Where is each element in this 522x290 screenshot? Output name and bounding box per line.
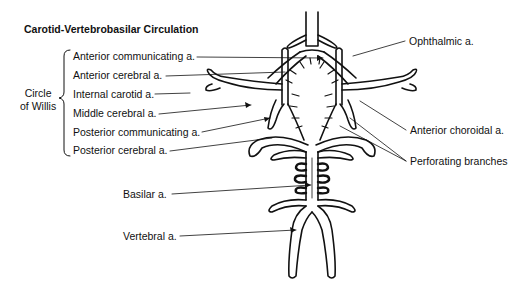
vertebral-vessels (269, 200, 355, 278)
posterior-vessels (249, 137, 375, 200)
perforating-branches (286, 58, 338, 128)
leader-lines (155, 41, 406, 236)
circulation-illustration (0, 0, 522, 290)
anterior-vessels (206, 12, 417, 140)
brace (59, 50, 70, 156)
